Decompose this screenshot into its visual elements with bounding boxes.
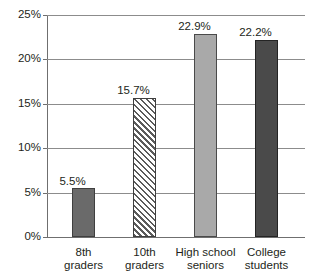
x-axis-label-college-students-line2: students xyxy=(229,259,305,272)
y-axis-tick-label-0: 0% xyxy=(1,231,41,243)
bar-8th-graders[interactable] xyxy=(72,188,95,237)
bar-value-label-high-school-seniors: 22.9% xyxy=(165,21,225,33)
bar-college-students[interactable] xyxy=(255,40,278,237)
bar-value-label-8th-graders: 5.5% xyxy=(43,176,103,188)
bar-10th-graders[interactable] xyxy=(133,98,156,237)
y-axis-tick-label-5: 5% xyxy=(1,187,41,199)
y-axis-labels: 25% 20% 15% 10% 5% 0% xyxy=(0,0,41,275)
gridline-baseline-0 xyxy=(47,237,305,238)
y-axis-tick-label-25: 25% xyxy=(1,9,41,21)
y-axis-tick-label-10: 10% xyxy=(1,142,41,154)
x-axis-label-college-students: College students xyxy=(229,246,305,272)
gridline-25 xyxy=(47,15,305,16)
y-axis-tick-label-15: 15% xyxy=(1,98,41,110)
x-axis-label-college-students-line1: College xyxy=(229,246,305,259)
bar-value-label-college-students: 22.2% xyxy=(226,27,286,39)
bar-high-school-seniors[interactable] xyxy=(194,34,217,237)
y-axis-tick-label-20: 20% xyxy=(1,53,41,65)
bar-value-label-10th-graders: 15.7% xyxy=(104,85,164,97)
bar-chart: 25% 20% 15% 10% 5% 0% 5.5% 15.7% 22.9% 2… xyxy=(0,0,320,275)
plot-area xyxy=(47,15,305,237)
